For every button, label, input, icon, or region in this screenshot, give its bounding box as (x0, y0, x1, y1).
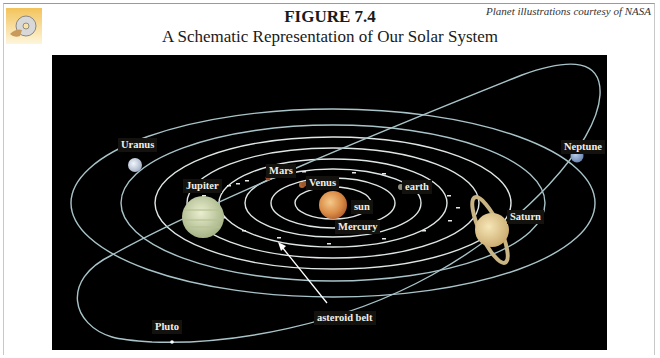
uranus-planet (128, 158, 142, 172)
label-mercury: Mercury (335, 220, 380, 234)
label-mars: Mars (266, 164, 296, 178)
pluto-planet (170, 340, 174, 344)
label-saturn: Saturn (507, 210, 544, 224)
figure-title: A Schematic Representation of Our Solar … (0, 27, 660, 47)
image-credit: Planet illustrations courtesy of NASA (486, 5, 651, 17)
solar-system-diagram: Uranus Jupiter Mars Venus earth sun Merc… (52, 55, 607, 350)
label-pluto: Pluto (152, 320, 182, 334)
label-asteroid-belt: asteroid belt (314, 311, 376, 325)
label-jupiter: Jupiter (183, 179, 222, 193)
label-earth: earth (402, 180, 432, 194)
label-uranus: Uranus (118, 138, 157, 152)
sun (319, 191, 347, 219)
orbits-canvas (52, 55, 607, 350)
asteroid-belt-pointer (282, 247, 327, 303)
label-venus: Venus (306, 176, 339, 190)
jupiter-planet (182, 196, 224, 238)
label-sun: sun (351, 200, 373, 214)
label-neptune: Neptune (561, 140, 605, 154)
